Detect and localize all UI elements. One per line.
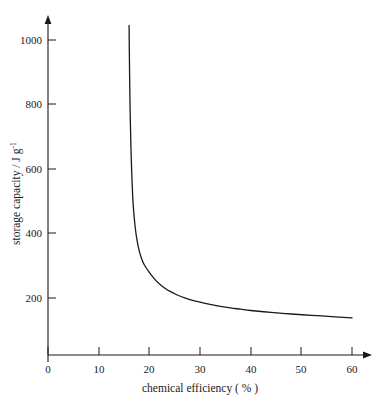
y-axis-title-text: storage capacity / J g bbox=[10, 148, 23, 245]
y-axis-title-exponent: -1 bbox=[9, 142, 18, 148]
y-axis-arrow-up-icon bbox=[45, 15, 52, 24]
storage-capacity-line-chart: 200 400 600 800 1000 0 10 20 30 40 50 60 bbox=[0, 0, 385, 402]
x-tick-label-50: 50 bbox=[296, 363, 308, 375]
y-axis-tick-labels: 200 400 600 800 1000 bbox=[20, 34, 43, 304]
y-tick-label-400: 400 bbox=[26, 227, 43, 239]
storage-capacity-curve bbox=[129, 26, 352, 318]
x-tick-label-40: 40 bbox=[246, 363, 258, 375]
x-tick-label-0: 0 bbox=[45, 363, 51, 375]
x-axis-title: chemical efficiency ( % ) bbox=[142, 382, 258, 395]
x-tick-label-10: 10 bbox=[94, 363, 106, 375]
x-axis-arrow-right-icon bbox=[363, 352, 372, 359]
y-axis-ticks bbox=[48, 40, 56, 298]
y-tick-label-1000: 1000 bbox=[20, 34, 43, 46]
y-axis-title: storage capacity / J g-1 bbox=[9, 142, 23, 245]
y-tick-label-200: 200 bbox=[26, 292, 43, 304]
x-axis-tick-labels: 0 10 20 30 40 50 60 bbox=[45, 363, 358, 375]
x-tick-label-30: 30 bbox=[195, 363, 207, 375]
y-tick-label-800: 800 bbox=[26, 98, 43, 110]
chart-figure: 200 400 600 800 1000 0 10 20 30 40 50 60 bbox=[0, 0, 385, 402]
y-tick-label-600: 600 bbox=[26, 163, 43, 175]
x-tick-label-60: 60 bbox=[347, 363, 359, 375]
x-tick-label-20: 20 bbox=[144, 363, 156, 375]
x-axis-ticks bbox=[48, 347, 352, 355]
